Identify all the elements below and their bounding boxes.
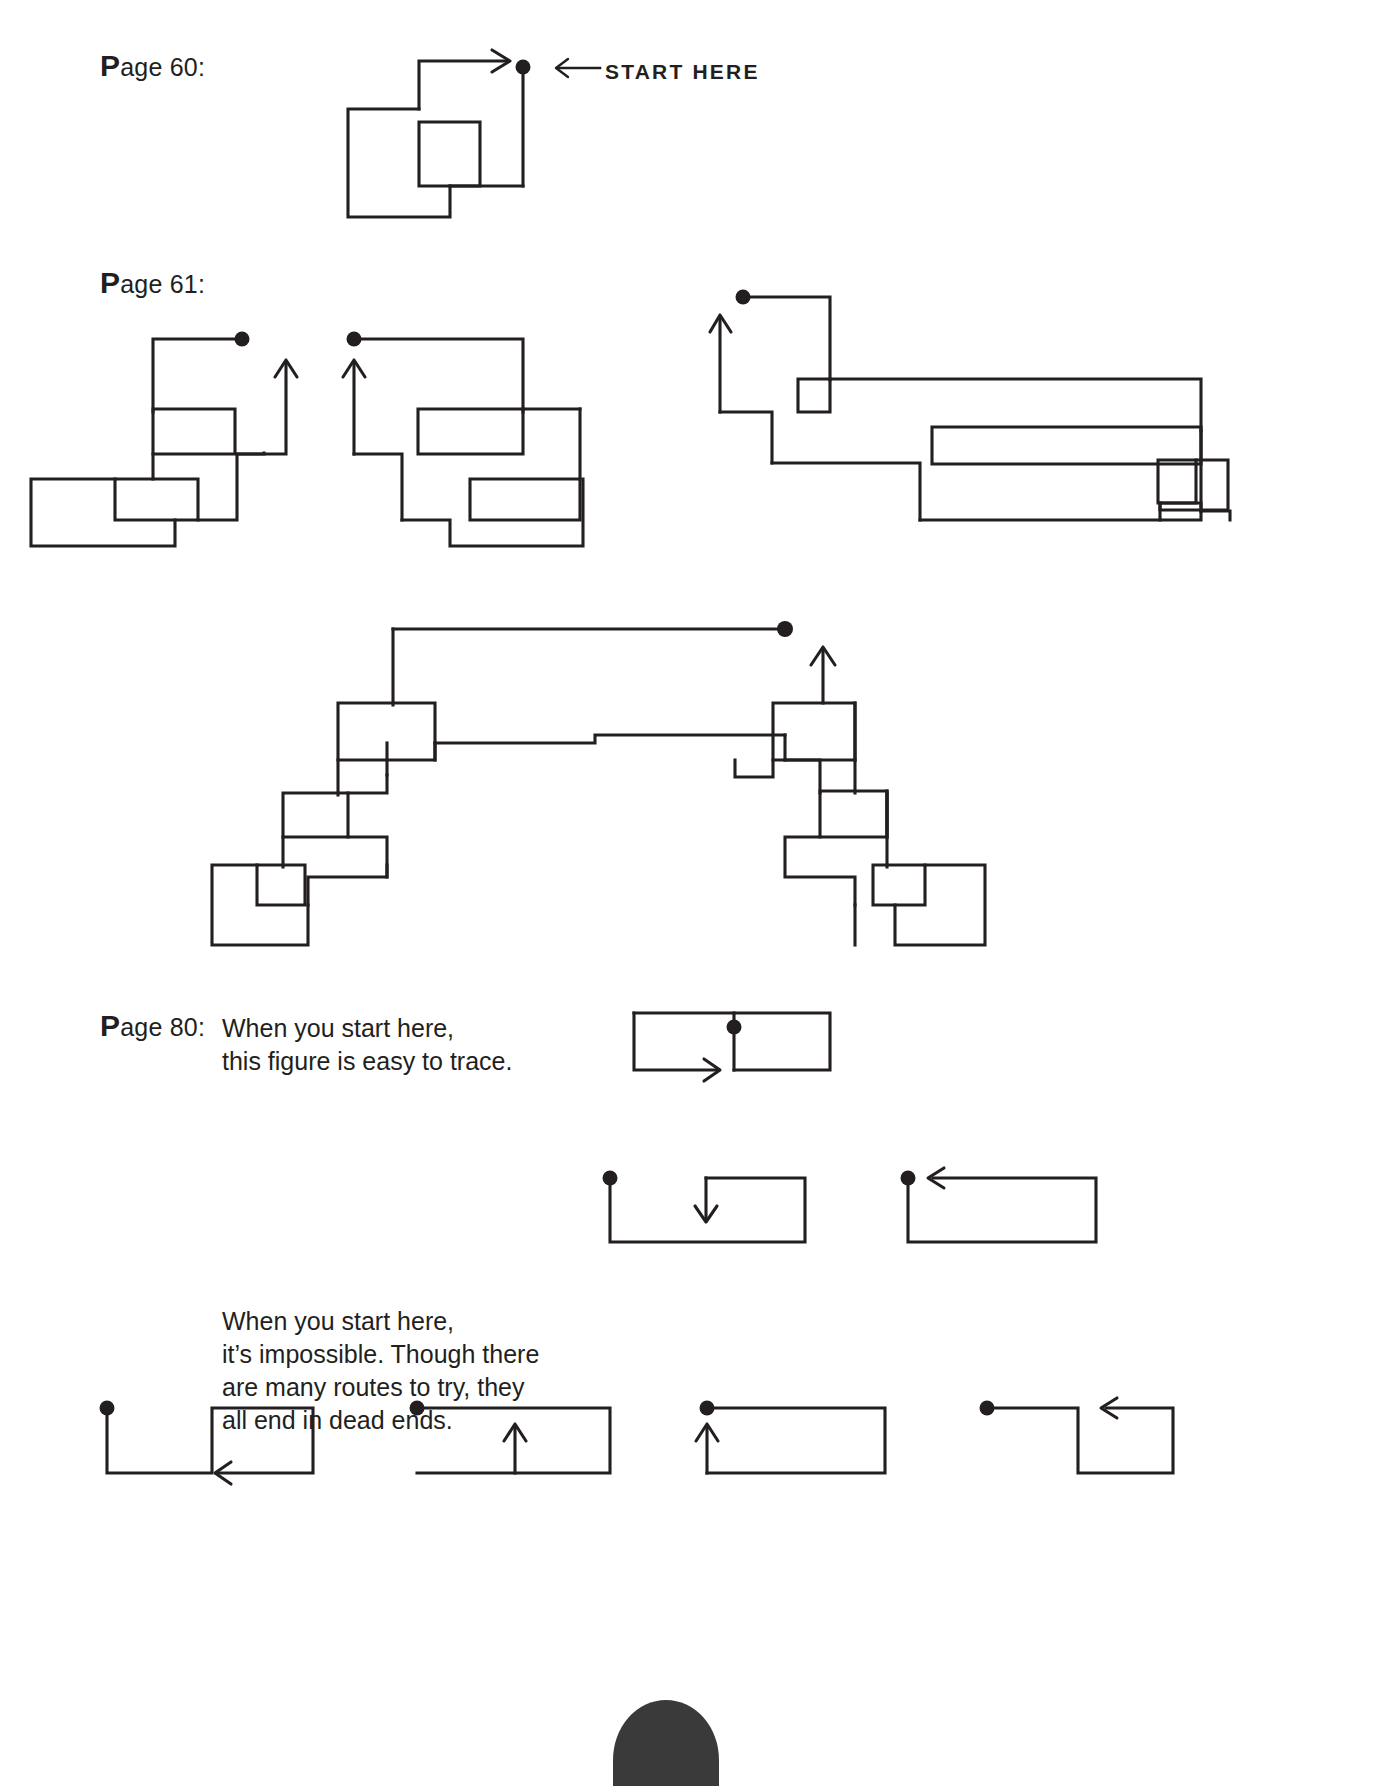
figure-page-80-impossible-1 [600, 1160, 830, 1270]
figure-page-61-b [330, 330, 630, 560]
page-61-label-rest: age 61: [120, 270, 205, 298]
start-dot-bottom-1 [100, 1401, 115, 1416]
page-80-label-rest: age 80: [120, 1013, 205, 1041]
start-dot-page-61-c [736, 290, 751, 305]
page-61-label-capital: P [100, 266, 120, 299]
start-dot-arch [777, 621, 793, 637]
page-60-label-capital: P [100, 49, 120, 82]
page-80-caption-easy: When you start here, this figure is easy… [222, 1012, 512, 1078]
start-dot-bottom-4 [980, 1401, 995, 1416]
figure-page-80-impossible-2 [898, 1160, 1128, 1270]
figure-page-61-a [20, 330, 320, 560]
figure-bottom-2 [405, 1395, 645, 1505]
page-61-label: Page 61: [100, 270, 205, 299]
figure-bottom-4 [975, 1395, 1215, 1505]
start-dot-bottom-2 [410, 1401, 425, 1416]
start-dot-page-61-a [235, 332, 250, 347]
figure-arch [195, 615, 1005, 960]
start-dot-page-80-impossible-1 [603, 1171, 618, 1186]
figure-bottom-3 [695, 1395, 935, 1505]
start-dot-page-60 [516, 60, 531, 75]
start-dot-bottom-3 [700, 1401, 715, 1416]
page-80-label-capital: P [100, 1009, 120, 1042]
start-here-annotation: START HERE [605, 60, 760, 84]
start-dot-page-80-impossible-2 [901, 1171, 916, 1186]
figure-page-61-c-lower-box [1150, 455, 1280, 525]
figure-page-60 [340, 40, 560, 230]
page-60-label: Page 60: [100, 53, 205, 82]
start-dot-page-61-b [347, 332, 362, 347]
page-60-label-rest: age 60: [120, 53, 205, 81]
start-dot-page-80-easy [727, 1020, 742, 1035]
figure-page-80-easy [630, 1005, 850, 1095]
figure-bottom-1 [95, 1395, 335, 1505]
page-80-label: Page 80: [100, 1013, 205, 1042]
page-number-blob [613, 1700, 719, 1786]
caption-line-2: it’s impossible. Though there [222, 1340, 539, 1368]
caption-line-1: When you start here, [222, 1307, 454, 1335]
start-dot-wrap-page-61-c [710, 285, 770, 325]
